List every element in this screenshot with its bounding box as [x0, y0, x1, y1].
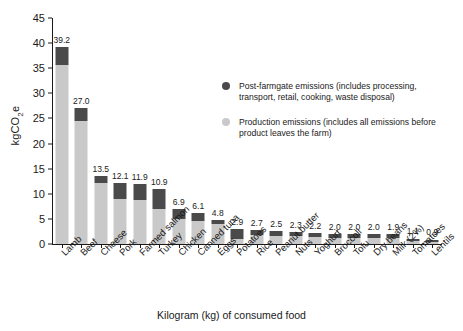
bar-value-label: 12.1 — [112, 171, 129, 181]
legend-light-circle-icon — [222, 118, 230, 126]
bar-value-label: 10.9 — [151, 177, 168, 187]
bar-segment-production[interactable] — [94, 183, 107, 244]
bar-segment-production[interactable] — [133, 200, 146, 244]
bar-value-label: 4.8 — [212, 208, 224, 218]
chart-legend: Post-farmgate emissions (includes proces… — [222, 81, 454, 152]
bar-group[interactable] — [91, 18, 111, 244]
bar-value-label: 27.0 — [73, 96, 90, 106]
stacked-bar[interactable] — [55, 47, 68, 244]
legend-item-post-farmgate: Post-farmgate emissions (includes proces… — [222, 81, 454, 104]
bar-group[interactable] — [130, 18, 150, 244]
bar-group[interactable] — [150, 18, 170, 244]
bar-segment-post-farmgate[interactable] — [94, 176, 107, 183]
bar-group[interactable] — [52, 18, 72, 244]
legend-dark-circle-icon — [222, 82, 230, 90]
y-axis-title: kgCO2e — [9, 91, 24, 161]
stacked-bar[interactable] — [94, 176, 107, 244]
bar-value-label: 2.5 — [270, 219, 282, 229]
bar-group[interactable] — [72, 18, 92, 244]
bar-segment-post-farmgate[interactable] — [75, 108, 88, 121]
bar-group[interactable] — [111, 18, 131, 244]
stacked-bar[interactable] — [75, 108, 88, 244]
y-axis-title-prefix: kgCO — [9, 117, 21, 146]
bar-segment-post-farmgate[interactable] — [114, 183, 127, 199]
bar-value-label: 13.5 — [92, 164, 109, 174]
x-axis-title: Kilogram (kg) of consumed food — [0, 309, 463, 321]
bar-segment-post-farmgate[interactable] — [55, 47, 68, 65]
bar-value-label: 39.2 — [53, 35, 70, 45]
bar-value-label: 6.1 — [192, 201, 204, 211]
stacked-bar[interactable] — [133, 184, 146, 244]
bar-value-label: 2.0 — [368, 222, 380, 232]
bar-value-label: 11.9 — [132, 172, 148, 182]
legend-item-post-farmgate-label: Post-farmgate emissions (includes proces… — [239, 81, 454, 104]
y-axis-title-subscript: 2 — [16, 112, 25, 117]
bar-segment-post-farmgate[interactable] — [192, 213, 205, 221]
bar-segment-production[interactable] — [55, 65, 68, 244]
emissions-bar-chart: kgCO2e 051015202530354045 39.227.013.512… — [0, 0, 463, 331]
legend-item-production-label: Production emissions (includes all emiss… — [239, 117, 454, 140]
legend-item-production: Production emissions (includes all emiss… — [222, 117, 454, 140]
bar-segment-post-farmgate[interactable] — [153, 189, 166, 209]
y-axis-title-suffix: e — [9, 106, 21, 112]
bar-segment-post-farmgate[interactable] — [133, 184, 146, 200]
bar-segment-production[interactable] — [75, 121, 88, 244]
